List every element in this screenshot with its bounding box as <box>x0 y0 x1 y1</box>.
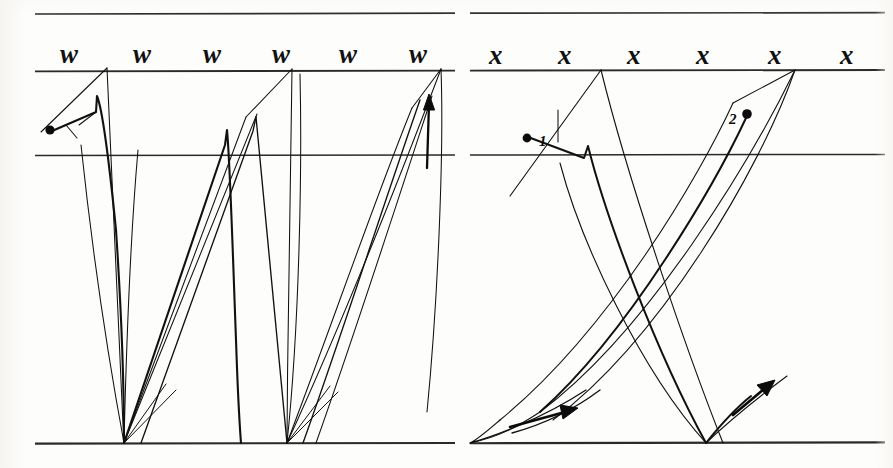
w-vertex-1-hairline <box>124 384 176 443</box>
model-letter-w-4: w <box>272 41 290 68</box>
w-start-dot <box>45 125 54 134</box>
model-letter-w-3: w <box>203 41 221 68</box>
model-letter-x-4: x <box>696 42 710 69</box>
w-outline-apex-2-flag <box>246 69 292 117</box>
model-letter-x-1: x <box>489 42 503 69</box>
w-stroke-limb-1-inner <box>124 150 138 443</box>
model-letter-x-6: x <box>840 42 854 69</box>
w-entry-tick <box>66 125 77 138</box>
guideline-group <box>35 13 885 444</box>
model-letter-x-2: x <box>558 42 572 69</box>
w-outline-up-1-a <box>124 117 246 443</box>
letter-w-construction <box>41 68 442 443</box>
w-outline-up-2-a <box>287 108 412 443</box>
model-letter-x-3: x <box>627 42 641 69</box>
letter-x-construction <box>470 70 795 443</box>
x-s2-outline-shoulder <box>733 70 795 103</box>
w-outline-up-2-b <box>287 69 441 443</box>
model-letter-w-6: w <box>409 41 427 68</box>
x-s2-outline-left <box>540 70 795 412</box>
w-stroke-limb-3-inner <box>316 96 432 443</box>
x-stroke-1-exit-arrow-icon <box>733 380 775 415</box>
x-stroke-1-start-dot <box>523 134 532 143</box>
model-letter-w-2: w <box>133 41 151 68</box>
x-s2-outline-shoulder-down <box>500 103 733 420</box>
guideline-midline-right <box>470 154 885 155</box>
x-s1-outline-right <box>601 70 723 443</box>
stroke-number-1-label: 1 <box>539 134 547 149</box>
guideline-ascender-left <box>35 13 455 14</box>
x-stroke-2-start-dot <box>742 109 752 119</box>
guideline-waist-right <box>470 70 885 71</box>
stroke-number-2-label: 2 <box>729 112 737 127</box>
x-s1-exit-hook <box>706 376 787 443</box>
model-letter-x-5: x <box>768 42 782 69</box>
guideline-ascender-right <box>470 13 885 14</box>
w-outline-down-1-left <box>107 68 124 443</box>
guideline-waist-left <box>35 71 455 72</box>
model-letter-w-1: w <box>60 41 78 68</box>
model-letter-w-5: w <box>339 41 357 68</box>
x-s2-center <box>540 118 746 412</box>
stroke-diagram-canvas <box>0 0 893 468</box>
x-s2-tail-hook-outer <box>470 390 586 443</box>
worksheet-page: w w w w w w x x x x x x 1 2 Italic handw… <box>0 0 893 468</box>
w-exit-arrow-up-icon <box>423 94 434 168</box>
x-s1-outline-entry <box>510 70 601 196</box>
guideline-base-right <box>470 442 885 443</box>
guideline-base-left <box>35 443 455 444</box>
w-stroke-limb-3 <box>303 100 420 443</box>
w-stroke-path-center <box>52 96 241 443</box>
